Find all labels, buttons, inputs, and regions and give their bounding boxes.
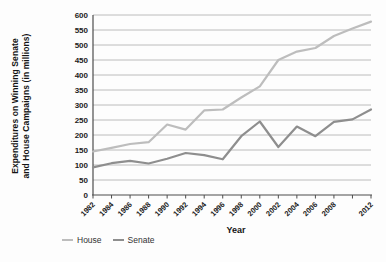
legend-label-senate: Senate: [128, 235, 155, 245]
senate-line: [93, 110, 371, 168]
legend: HouseSenate: [62, 235, 155, 245]
x-tick-label: 1984: [97, 199, 116, 218]
y-tick-label: 100: [75, 161, 89, 170]
x-tick-label: 2000: [246, 200, 264, 218]
campaign-expenditures-figure: 0501001502002503003504004505005506001982…: [0, 0, 386, 262]
x-tick-label: 1988: [134, 200, 152, 218]
x-tick-label: 2004: [283, 199, 302, 218]
campaign-expenditures-chart: 0501001502002503003504004505005506001982…: [0, 0, 386, 262]
y-tick-label: 450: [75, 56, 89, 65]
house-line: [93, 22, 371, 152]
x-tick-label: 1998: [227, 200, 245, 218]
y-tick-label: 250: [75, 116, 89, 125]
legend-item-house: House: [62, 235, 102, 245]
legend-label-house: House: [77, 235, 102, 245]
x-tick-label: 1986: [116, 200, 134, 218]
x-tick-label: 2002: [264, 200, 282, 218]
y-tick-label: 400: [75, 71, 89, 80]
y-tick-label: 0: [84, 191, 89, 200]
x-tick-label: 1990: [153, 200, 171, 218]
x-tick-label: 2012: [357, 200, 375, 218]
x-axis-title: Year: [196, 225, 276, 235]
y-axis-title-line2: and House Campaigns (in millions): [21, 11, 32, 201]
y-axis-title-line1: Expenditures on Winning Senate: [10, 11, 21, 201]
x-tick-label: 2006: [301, 200, 319, 218]
y-tick-label: 500: [75, 41, 89, 50]
y-tick-label: 150: [75, 146, 89, 155]
x-tick-label: 2008: [320, 200, 338, 218]
x-tick-label: 1996: [208, 200, 226, 218]
y-tick-label: 350: [75, 86, 89, 95]
y-tick-label: 300: [75, 101, 89, 110]
y-tick-label: 600: [75, 11, 89, 20]
y-axis-title: Expenditures on Winning Senate and House…: [10, 11, 34, 201]
legend-swatch-senate: [113, 239, 124, 241]
y-tick-label: 200: [75, 131, 89, 140]
legend-swatch-house: [62, 239, 73, 241]
legend-item-senate: Senate: [113, 235, 155, 245]
x-tick-label: 1994: [190, 199, 209, 218]
y-tick-label: 50: [79, 176, 88, 185]
x-tick-label: 1982: [79, 200, 97, 218]
y-tick-label: 550: [75, 26, 89, 35]
x-tick-label: 1992: [171, 200, 189, 218]
